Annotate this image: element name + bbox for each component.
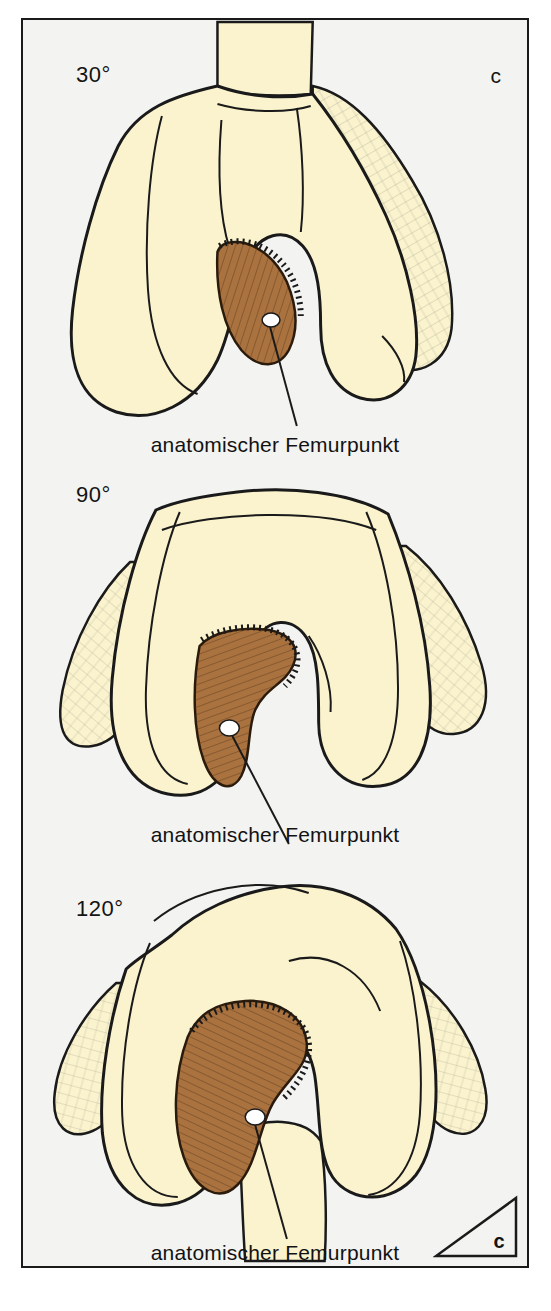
anatomical-femur-point-marker-90 [219,720,239,736]
figure-frame: 30° 90° 120° anatomischer Femurpunkt ana… [21,18,529,1268]
caption-anatomical-femur-point-30: anatomischer Femurpunkt [23,433,527,457]
triangle-label-c: c [493,1230,504,1252]
caption-anatomical-femur-point-90: anatomischer Femurpunkt [23,823,527,847]
figure-root: 30° 90° 120° anatomischer Femurpunkt ana… [0,0,551,1311]
angle-label-90: 90° [76,482,111,508]
angle-label-30: 30° [76,62,111,88]
figure-part-label-c: c [491,64,502,88]
triangle-icon: c [433,1194,519,1260]
anatomical-femur-point-marker [262,313,280,327]
corner-triangle-marker: c [433,1194,519,1260]
footprint-hatching-90 [195,629,296,786]
anatomical-femur-point-marker-120 [245,1109,265,1125]
femur-illustration-90 [23,450,527,870]
panel-flexion-90 [23,450,527,870]
femoral-shaft [217,22,312,96]
footprint-hatching [217,242,295,364]
angle-label-120: 120° [76,896,124,922]
